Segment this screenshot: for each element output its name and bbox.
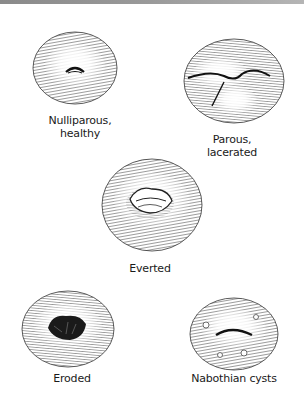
top-border-bar <box>0 0 304 4</box>
caption-nabothian: Nabothian cysts <box>184 372 284 385</box>
cervix-nulliparous-illustration <box>30 28 120 108</box>
caption-eroded: Eroded <box>32 372 112 385</box>
cervix-eroded-illustration <box>18 288 118 370</box>
cervix-everted-illustration <box>98 155 206 255</box>
cervix-nabothian-cysts-illustration <box>186 295 282 373</box>
cervix-parous-lacerated-illustration <box>180 36 288 126</box>
caption-nulliparous: Nulliparous, healthy <box>40 114 120 140</box>
caption-everted: Everted <box>110 262 190 275</box>
